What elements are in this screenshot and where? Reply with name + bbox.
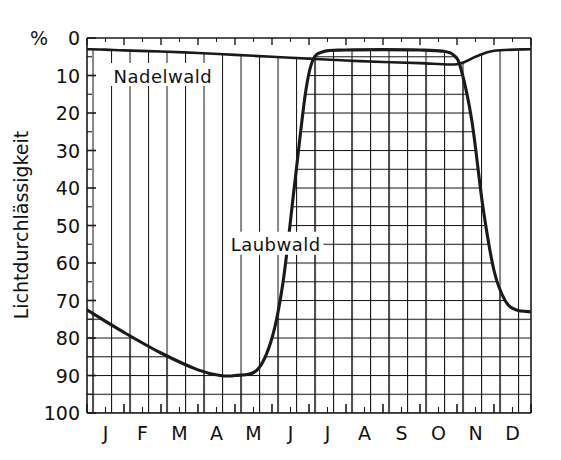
x-tick-label: F	[137, 422, 148, 444]
y-tick-label: 20	[56, 102, 80, 124]
x-tick-label: N	[468, 422, 482, 444]
x-tick-label: J	[102, 422, 109, 444]
y-tick-label: 90	[56, 365, 80, 387]
series-annotation-laubwald: Laubwald	[231, 234, 321, 255]
x-tick-label: J	[324, 422, 331, 444]
y-tick-label: 0	[68, 27, 80, 49]
series-fills	[87, 49, 531, 413]
y-tick-label: 40	[56, 177, 80, 199]
y-axis-title: Lichtdurchlässigkeit	[10, 131, 32, 320]
y-tick-label: 30	[56, 140, 80, 162]
y-tick-label: 10	[56, 65, 80, 87]
x-tick-label: M	[171, 422, 187, 444]
x-tick-label: O	[431, 422, 446, 444]
y-tick-label: 50	[56, 215, 80, 237]
x-tick-label: J	[287, 422, 294, 444]
y-axis-tick-labels: 0102030405060708090100	[44, 27, 80, 424]
x-tick-label: A	[210, 422, 223, 444]
percent-unit-label: %	[30, 27, 48, 49]
light-transmission-chart: 0102030405060708090100 JFMAMJJASOND % Li…	[0, 0, 561, 460]
chart-figure: 0102030405060708090100 JFMAMJJASOND % Li…	[0, 0, 561, 460]
x-tick-label: M	[245, 422, 261, 444]
x-tick-label: A	[358, 422, 371, 444]
x-axis-tick-labels: JFMAMJJASOND	[102, 422, 520, 444]
y-tick-label: 60	[56, 252, 80, 274]
y-tick-label: 80	[56, 327, 80, 349]
x-tick-label: S	[395, 422, 407, 444]
series-annotation-nadelwald: Nadelwald	[114, 66, 213, 87]
x-tick-label: D	[505, 422, 520, 444]
y-tick-label: 100	[44, 402, 80, 424]
y-tick-label: 70	[56, 290, 80, 312]
